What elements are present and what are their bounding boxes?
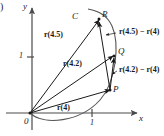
dot-R [98, 18, 101, 21]
point-label-Q: Q [118, 47, 125, 56]
vector-label-r-of-4p2: r(4.2) [63, 60, 82, 68]
arrow-secant-4p5 [99, 22, 110, 90]
vector-label-secant-4p5: r(4.5) − r(4) [119, 28, 159, 36]
x-axis-label: x [139, 114, 143, 123]
point-label-P: P [113, 85, 119, 94]
secant-vector-arrows [99, 22, 114, 90]
dot-origin [29, 112, 32, 115]
y-axis-tick-label-1: 1 [19, 52, 23, 60]
dot-P [109, 89, 112, 92]
vector-function-secant-figure: ) y x 0 1 1 C P Q R r(4) r(4.2) r(4.5) r… [0, 0, 164, 136]
origin-label: 0 [24, 117, 29, 126]
axis-lines [6, 8, 137, 130]
x-axis-tick-label-1: 1 [90, 119, 94, 127]
curve-label-C: C [72, 12, 78, 21]
point-label-R: R [102, 10, 108, 19]
vector-label-secant-4p2: r(4.2) − r(4) [119, 66, 159, 74]
vector-label-r-of-4p5: r(4.5) [44, 31, 63, 39]
figure-caption-fragment: ) [0, 2, 3, 12]
y-axis-label: y [23, 2, 27, 11]
dot-Q [113, 55, 116, 58]
vector-label-r-of-4: r(4) [57, 104, 70, 112]
